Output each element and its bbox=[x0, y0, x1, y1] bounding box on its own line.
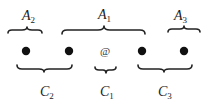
brace-diagram: A2 A1 A3 @ C2 C1 C3 bbox=[0, 0, 213, 106]
label-c3: C3 bbox=[158, 84, 172, 101]
point-4 bbox=[180, 47, 188, 55]
brace-c2 bbox=[17, 65, 72, 72]
label-a3: A3 bbox=[173, 8, 188, 25]
point-2 bbox=[65, 47, 73, 55]
point-1 bbox=[22, 47, 30, 55]
label-a2: A2 bbox=[21, 8, 35, 25]
brace-a2 bbox=[8, 27, 42, 33]
brace-a3 bbox=[168, 26, 200, 32]
label-c2: C2 bbox=[40, 84, 54, 101]
brace-c3 bbox=[138, 65, 192, 72]
center-symbol: @ bbox=[100, 45, 110, 57]
brace-c1 bbox=[95, 67, 116, 73]
label-a1: A1 bbox=[97, 7, 111, 24]
brace-a1 bbox=[62, 26, 145, 34]
point-3 bbox=[138, 47, 146, 55]
label-c1: C1 bbox=[100, 84, 114, 101]
